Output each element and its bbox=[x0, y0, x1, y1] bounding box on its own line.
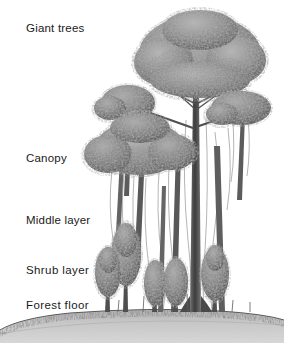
label-giant-trees: Giant trees bbox=[26, 22, 84, 35]
label-middle-layer: Middle layer bbox=[26, 214, 90, 227]
canopy-tree-right bbox=[203, 89, 273, 200]
label-forest-floor: Forest floor bbox=[26, 299, 89, 312]
rainforest-illustration bbox=[0, 0, 284, 343]
rainforest-layers-figure: Giant trees Canopy Middle layer Shrub la… bbox=[0, 0, 284, 343]
giant-crown bbox=[131, 7, 269, 102]
label-shrub-layer: Shrub layer bbox=[26, 264, 89, 277]
label-canopy: Canopy bbox=[26, 152, 67, 165]
